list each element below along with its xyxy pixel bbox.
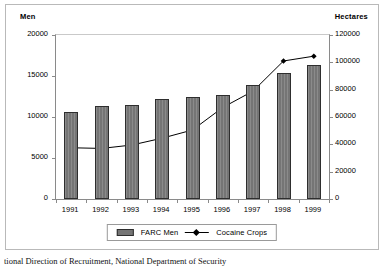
- bar-farc-men-1992: [95, 106, 109, 199]
- plot-area: [55, 34, 330, 200]
- right-axis-caption: Hectares: [335, 12, 368, 21]
- y-axis-tick-label: 10000: [6, 112, 48, 120]
- y-axis-tick-label: 0: [6, 194, 48, 202]
- y2-axis-tick: [329, 144, 333, 145]
- y-axis-tick: [52, 158, 56, 159]
- x-axis-tick: [268, 199, 269, 203]
- x-axis-tick-label: 1995: [183, 205, 200, 214]
- bar-farc-men-1996: [216, 95, 230, 199]
- x-axis-tick: [177, 199, 178, 203]
- bar-farc-men-1993: [125, 105, 139, 199]
- bar-farc-men-1999: [307, 65, 321, 199]
- y2-axis-tick-label: 80000: [335, 85, 356, 93]
- x-axis-tick-label: 1997: [244, 205, 261, 214]
- y-axis-tick-label: 5000: [6, 153, 48, 161]
- y2-axis-tick-label: 100000: [335, 58, 360, 66]
- x-axis-tick-label: 1994: [153, 205, 170, 214]
- legend-label-farc-men: FARC Men: [141, 228, 178, 237]
- x-axis-tick: [238, 199, 239, 203]
- x-axis-tick: [147, 199, 148, 203]
- bar-farc-men-1991: [64, 112, 78, 199]
- x-axis-tick-label: 1998: [274, 205, 291, 214]
- y2-axis-tick: [329, 117, 333, 118]
- x-axis-tick: [86, 199, 87, 203]
- figure-caption: tional Direction of Recruitment, Nationa…: [4, 256, 382, 266]
- cocaine-crops-marker-1999: [311, 53, 317, 59]
- y2-axis-tick: [329, 172, 333, 173]
- x-axis-tick: [208, 199, 209, 203]
- x-axis-tick-label: 1991: [62, 205, 79, 214]
- bar-farc-men-1995: [186, 97, 200, 200]
- y2-axis-tick: [329, 62, 333, 63]
- y2-axis-tick: [329, 90, 333, 91]
- x-axis-tick: [299, 199, 300, 203]
- legend-label-cocaine-crops: Cocaine Crops: [216, 228, 267, 237]
- y2-axis-tick-label: 60000: [335, 112, 356, 120]
- legend-line-cocaine-crops: [185, 229, 209, 236]
- y-axis-tick: [52, 117, 56, 118]
- legend-swatch-farc-men: [117, 229, 134, 236]
- chart-legend: FARC Men Cocaine Crops: [107, 224, 277, 241]
- bar-farc-men-1997: [246, 85, 260, 199]
- x-axis-tick: [56, 199, 57, 203]
- x-axis-tick-label: 1993: [122, 205, 139, 214]
- x-axis-tick: [117, 199, 118, 203]
- y2-axis-tick-label: 120000: [335, 30, 360, 38]
- x-axis-tick: [329, 199, 330, 203]
- y-axis-tick: [52, 76, 56, 77]
- y-axis-tick: [52, 35, 56, 36]
- bar-farc-men-1994: [155, 99, 169, 199]
- y2-axis-tick-label: 40000: [335, 140, 356, 148]
- x-axis-tick-label: 1999: [304, 205, 321, 214]
- chart-figure: Men Hectares FARC Men Cocaine Crops 0500…: [5, 4, 379, 250]
- bar-farc-men-1998: [277, 73, 291, 199]
- y2-axis-tick-label: 20000: [335, 167, 356, 175]
- y-axis-tick-label: 20000: [6, 30, 48, 38]
- y2-axis-tick-label: 0: [335, 194, 339, 202]
- y2-axis-tick: [329, 35, 333, 36]
- y-axis-tick-label: 15000: [6, 71, 48, 79]
- left-axis-caption: Men: [20, 12, 36, 21]
- x-axis-tick-label: 1996: [213, 205, 230, 214]
- x-axis-tick-label: 1992: [92, 205, 109, 214]
